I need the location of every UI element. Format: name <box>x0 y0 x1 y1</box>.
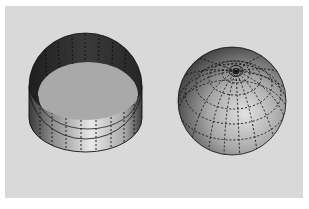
latitude-longitude-sphere <box>173 47 292 165</box>
open-cylinder <box>29 30 142 160</box>
figure-canvas <box>0 0 309 209</box>
